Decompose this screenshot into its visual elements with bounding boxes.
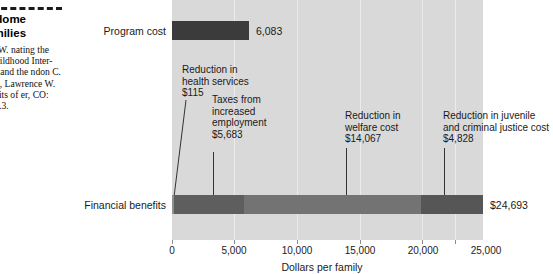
tick-label-25000: 25,000 xyxy=(459,245,513,256)
bar-financial-benefits xyxy=(172,195,483,214)
tick-mark-20000 xyxy=(422,240,423,244)
bar-segment-taxes-employment xyxy=(174,195,244,214)
leader-line-taxes-employment xyxy=(213,152,214,195)
bar-segment-juvenile-justice xyxy=(421,195,483,214)
x-axis-title: Dollars per family xyxy=(262,261,382,273)
bar-segment-welfare-cost xyxy=(244,195,421,214)
tick-mark-15000 xyxy=(360,240,361,244)
figure-page: of Home Families Peter W. nating the Cos… xyxy=(0,0,553,274)
tick-mark-0 xyxy=(172,240,173,244)
annotation-juvenile-justice: Reduction in juvenile and criminal justi… xyxy=(443,110,553,145)
annotation-welfare-cost: Reduction in welfare cost $14,067 xyxy=(345,110,437,145)
tick-label-5000: 5,000 xyxy=(209,245,259,256)
leader-line-welfare-cost xyxy=(346,148,347,195)
tick-label-15000: 15,000 xyxy=(333,245,387,256)
chart: Program cost 6,083 Reduction in health s… xyxy=(0,0,553,274)
bar-value-financial-benefits: $24,693 xyxy=(490,199,528,211)
tick-mark-22500 xyxy=(455,240,456,244)
annotation-taxes-employment: Taxes from increased employment $5,683 xyxy=(212,94,292,140)
tick-mark-10000 xyxy=(297,240,298,244)
leader-line-juvenile-justice xyxy=(444,148,445,195)
bar-label-financial-benefits: Financial benefits xyxy=(52,199,166,211)
tick-mark-5000 xyxy=(234,240,235,244)
tick-label-20000: 20,000 xyxy=(396,245,450,256)
tick-label-0: 0 xyxy=(152,245,192,256)
tick-label-10000: 10,000 xyxy=(270,245,324,256)
